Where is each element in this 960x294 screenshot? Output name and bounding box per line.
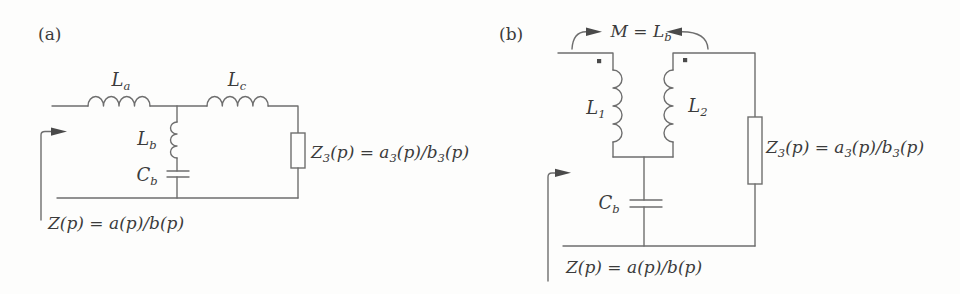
input-impedance-arrow-a-line bbox=[41, 132, 52, 221]
circuit-a bbox=[41, 96, 305, 220]
inductor-l1-coil bbox=[613, 70, 622, 142]
inductor-la-label: La bbox=[112, 69, 131, 91]
input-impedance-equation-a: Z(p) = a(p)/b(p) bbox=[48, 212, 184, 234]
input-impedance-equation-b: Z(p) = a(p)/b(p) bbox=[566, 256, 702, 278]
inductor-lc-coil bbox=[207, 96, 268, 106]
inductor-l1-label: L1 bbox=[586, 97, 605, 119]
load-impedance-equation-b: Z3(p) = a3(p)/b3(p) bbox=[766, 136, 924, 158]
circuit-b bbox=[548, 28, 762, 281]
wire-b-top-right bbox=[673, 53, 755, 117]
load-impedance-equation-a: Z3(p) = a3(p)/b3(p) bbox=[311, 141, 469, 163]
input-impedance-arrow-b-head bbox=[555, 169, 571, 177]
load-z3-b-box bbox=[748, 117, 762, 184]
inductor-l2-label: L2 bbox=[688, 95, 707, 117]
polarity-dot-right bbox=[683, 58, 687, 62]
figure-b-tag: (b) bbox=[499, 23, 523, 45]
wire-b-top-left bbox=[558, 53, 613, 70]
load-z3-a-box bbox=[291, 133, 305, 168]
figure-canvas: (a) La Lc Lb Cb Z3(p) = a3(p)/b3(p) Z(p)… bbox=[0, 0, 960, 294]
mutual-coupling-arrow-right-arc bbox=[682, 32, 708, 49]
figure-a-tag: (a) bbox=[38, 23, 61, 45]
inductor-la-coil bbox=[88, 97, 150, 107]
input-impedance-arrow-a-head bbox=[51, 128, 67, 136]
mutual-coupling-arrow-left-head bbox=[586, 28, 602, 36]
inductor-l2-coil bbox=[664, 70, 673, 142]
inductor-lb-label: Lb bbox=[137, 128, 156, 150]
capacitor-cb-b-label: Cb bbox=[598, 192, 619, 214]
input-impedance-arrow-b-line bbox=[548, 173, 556, 281]
inductor-lb-coil bbox=[171, 122, 178, 158]
mutual-inductance-equation: M = Lb bbox=[610, 20, 671, 42]
polarity-dot-left bbox=[597, 59, 601, 63]
wire-a-top-right bbox=[268, 106, 298, 133]
inductor-lc-label: Lc bbox=[228, 69, 246, 91]
mutual-coupling-arrow-left-arc bbox=[572, 32, 586, 49]
capacitor-cb-a-label: Cb bbox=[136, 164, 157, 186]
